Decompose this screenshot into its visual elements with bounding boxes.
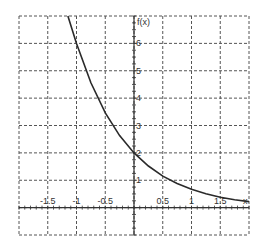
x-axis-label: x (243, 196, 248, 206)
y-tick-label: 1 (136, 175, 141, 185)
function-plot: -1.5-1-0.50.511.5123456 f(x) x (0, 0, 261, 247)
y-axis-label: f(x) (137, 17, 150, 27)
y-tick-label: 4 (136, 93, 141, 103)
x-tick-label: -0.5 (97, 196, 113, 206)
y-tick-label: 3 (136, 121, 141, 131)
y-tick-label: 5 (136, 66, 141, 76)
x-tick-label: 0.5 (156, 196, 169, 206)
x-tick-label: 1 (189, 196, 194, 206)
x-tick-label: -1 (72, 196, 80, 206)
y-tick-label: 6 (136, 38, 141, 48)
x-tick-label: -1.5 (40, 196, 56, 206)
